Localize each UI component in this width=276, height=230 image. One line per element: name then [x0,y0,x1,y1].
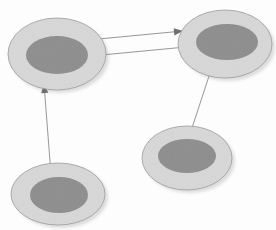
edge-line-bottom-left-to-top-left [44,84,51,174]
node-inner-texture-bottom-right [158,139,216,173]
node-top-right[interactable] [178,10,272,78]
node-inner-texture-top-left [26,36,88,74]
node-bottom-right[interactable] [142,126,232,190]
node-bottom-left[interactable] [11,163,105,225]
diagram-canvas [0,0,276,230]
edge-top-left-to-top-right[interactable] [88,27,183,40]
edge-line-bottom-right-to-top-right [191,67,212,131]
edge-bottom-left-to-top-left[interactable] [40,84,51,174]
diagram-svg [0,0,276,230]
node-layer [8,10,272,225]
edge-line-top-left-to-top-right [88,31,183,40]
node-inner-texture-top-right [196,24,258,60]
node-inner-texture-bottom-left [30,177,88,213]
node-top-left[interactable] [8,18,106,90]
